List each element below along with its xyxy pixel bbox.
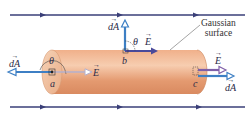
label-E-left: E	[93, 68, 99, 78]
vector-dA-top	[122, 20, 129, 51]
label-point-a: a	[50, 79, 55, 89]
label-theta-left: θ	[49, 56, 54, 66]
field-line-top	[10, 13, 245, 18]
label-point-b: b	[122, 56, 127, 66]
label-dA-right: dA	[225, 83, 236, 93]
label-E-right: E	[215, 56, 221, 66]
label-dA-left: dA	[9, 59, 20, 69]
label-point-c: c	[193, 79, 197, 89]
gaussian-surface-diagram: Gaussian surface dA θ a E dA θ E b E c d…	[0, 0, 250, 114]
field-line-bottom	[10, 105, 245, 110]
gaussian-surface-label: Gaussian surface	[201, 19, 236, 39]
callout-leader	[170, 25, 200, 50]
label-E-top: E	[145, 37, 151, 47]
label-theta-top: θ	[133, 37, 138, 47]
label-dA-top: dA	[108, 22, 119, 32]
